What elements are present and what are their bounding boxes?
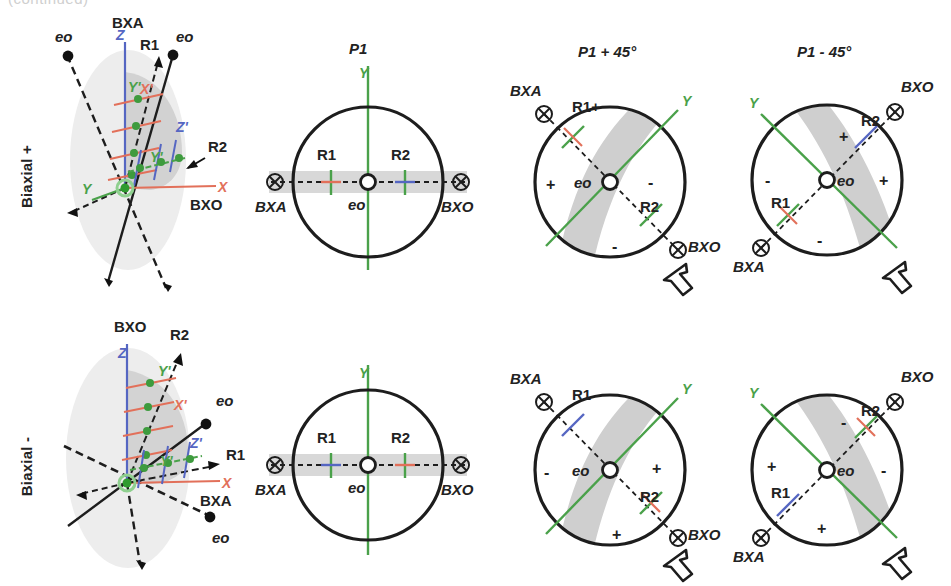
label-axis-z: Z bbox=[117, 345, 127, 361]
label-axis-y: Y bbox=[749, 385, 760, 401]
melatope-center bbox=[361, 458, 376, 473]
quadrant-sign-2: - bbox=[817, 232, 822, 249]
label-r1: R1 bbox=[226, 446, 245, 463]
quadrant-sign-1: - bbox=[648, 174, 653, 191]
label-axis-x: X bbox=[221, 475, 233, 491]
panel-biaxial-positive-p1-minus45: P1 - 45° Y R2 R1 eo bbox=[715, 30, 945, 292]
label-eo: eo bbox=[348, 479, 366, 496]
ray-r1-tick bbox=[562, 414, 584, 436]
quadrant-sign-2: - bbox=[612, 238, 617, 255]
quadrant-sign-0: + bbox=[839, 128, 848, 145]
label-r1: R1 bbox=[140, 36, 159, 53]
title-p1: P1 bbox=[349, 40, 367, 57]
rotate-ccw-arrow bbox=[664, 264, 692, 295]
label-axis-z-prime: Z' bbox=[175, 119, 189, 135]
label-bxo: BXO bbox=[190, 196, 223, 213]
label-r1: R1 bbox=[317, 429, 336, 446]
bxo-circled-cross bbox=[887, 104, 903, 120]
label-r2: R2 bbox=[640, 488, 659, 505]
panel-biaxial-negative-p1: Y R1 R2 eo BXA BXO bbox=[253, 350, 483, 570]
indicatrix-shaded-sector bbox=[127, 370, 188, 484]
rotate-ccw-arrow bbox=[883, 262, 911, 293]
label-bxo: BXO bbox=[441, 481, 474, 498]
label-eo-lower: eo bbox=[212, 529, 230, 546]
label-axis-z: Z bbox=[115, 27, 125, 43]
quadrant-sign-0: - bbox=[544, 464, 549, 481]
label-bxo: BXO bbox=[901, 78, 934, 95]
label-eo-right: eo bbox=[176, 28, 194, 45]
optic-axis-dot-right-upper bbox=[201, 419, 212, 430]
bxo-circled-cross bbox=[670, 242, 686, 258]
label-bxo: BXO bbox=[901, 368, 934, 385]
optic-axis-dot-right bbox=[168, 50, 179, 61]
rotate-ccw-arrow bbox=[664, 550, 692, 581]
panel-biaxial-negative-3d: BXO Z R2 eo eo R1 X Y' X' Z' Y' BXA bbox=[30, 298, 255, 586]
bxa-circled-cross bbox=[753, 530, 769, 546]
label-bxa: BXA bbox=[733, 548, 765, 565]
label-eo: eo bbox=[837, 462, 855, 479]
label-r2: R2 bbox=[391, 146, 410, 163]
label-axis-x-prime: X' bbox=[139, 81, 153, 97]
melatope-center bbox=[820, 463, 835, 478]
label-axis-x-prime: X' bbox=[173, 397, 187, 413]
optic-axis-tip-bottom-right bbox=[163, 283, 172, 292]
label-r2: R2 bbox=[861, 402, 880, 419]
label-r2: R2 bbox=[208, 138, 227, 155]
bxa-circled-cross bbox=[536, 106, 552, 122]
ray-r1-arrowhead bbox=[154, 56, 163, 68]
label-eo-left: eo bbox=[55, 28, 73, 45]
bxo-circled-cross bbox=[670, 530, 686, 546]
minor-dashed-arrowhead bbox=[67, 208, 78, 217]
clipped-caption-text: (continued) bbox=[8, 0, 208, 8]
quadrant-sign-0: - bbox=[841, 414, 846, 431]
label-r1-plus: R1+ bbox=[572, 98, 600, 115]
ray-r2-tick bbox=[855, 126, 877, 148]
quadrant-sign-3: + bbox=[879, 172, 888, 189]
label-r2: R2 bbox=[391, 429, 410, 446]
label-r1: R1 bbox=[317, 146, 336, 163]
label-bxa: BXA bbox=[733, 258, 765, 275]
label-r1-minus: R1 - bbox=[572, 386, 600, 403]
panel-biaxial-positive-3d: BXA eo eo R1 R2 Z X Y Z' X' Y' Y' BXO bbox=[30, 10, 250, 300]
label-eo: eo bbox=[837, 172, 855, 189]
label-axis-z-prime: Z' bbox=[189, 435, 203, 451]
panel-biaxial-negative-p1-plus45: Y R1 - R2 eo BXA BXO - + + bbox=[500, 350, 720, 580]
quadrant-sign-1: - bbox=[765, 172, 770, 189]
optic-axis-dot-right-lower bbox=[205, 512, 216, 523]
label-axis-y-prime-2: Y' bbox=[160, 453, 173, 469]
label-bxo-top: BXO bbox=[114, 318, 147, 335]
quadrant-sign-2: + bbox=[767, 458, 776, 475]
label-bxo: BXO bbox=[441, 198, 474, 215]
bxo-circled-cross bbox=[887, 394, 903, 410]
label-axis-y-prime: Y' bbox=[128, 79, 141, 95]
label-eo-upper: eo bbox=[216, 392, 234, 409]
label-r2: R2 bbox=[170, 326, 189, 343]
rotate-ccw-arrow bbox=[883, 548, 911, 579]
title-p1-minus-45: P1 - 45° bbox=[797, 43, 852, 60]
quadrant-sign-1: - bbox=[881, 462, 886, 479]
quadrant-sign-0: + bbox=[546, 176, 555, 193]
label-r2: R2 bbox=[861, 112, 880, 129]
label-r2: R2 bbox=[640, 198, 659, 215]
ray-r1-arrowhead bbox=[208, 461, 220, 470]
label-axis-y: Y bbox=[749, 95, 760, 111]
quadrant-sign-3: + bbox=[817, 520, 826, 537]
bxa-circled-cross bbox=[753, 240, 769, 256]
quadrant-sign-1: + bbox=[652, 460, 661, 477]
ray-r1-tick bbox=[562, 126, 584, 148]
ray-r2-arrowhead bbox=[173, 353, 183, 366]
ray-r2-tick bbox=[855, 416, 877, 438]
origin-dot bbox=[123, 479, 132, 488]
panel-biaxial-positive-p1: P1 Y R1 R2 eo BXA BXO bbox=[253, 30, 483, 280]
figure-canvas: (continued) Biaxial + Biaxial - bbox=[0, 0, 951, 586]
label-eo: eo bbox=[348, 196, 366, 213]
label-r1: R1 bbox=[771, 484, 790, 501]
label-axis-y-prime: Y' bbox=[158, 363, 171, 379]
label-eo: eo bbox=[574, 174, 592, 191]
label-axis-y: Y bbox=[682, 93, 693, 109]
label-bxa: BXA bbox=[510, 82, 542, 99]
label-eo: eo bbox=[572, 462, 590, 479]
bxa-circled-cross bbox=[536, 394, 552, 410]
panel-biaxial-negative-p1-minus45: Y R2 R1 eo BXA BXO - - + + bbox=[715, 350, 945, 582]
label-bxa: BXA bbox=[255, 481, 287, 498]
